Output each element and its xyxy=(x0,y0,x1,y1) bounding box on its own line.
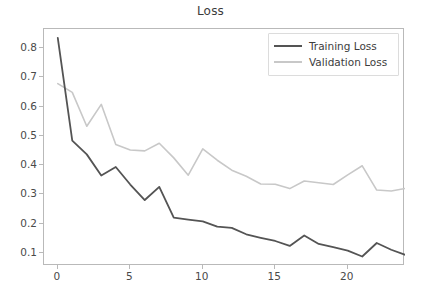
y-axis-tick-label: 0.7 xyxy=(7,70,37,82)
legend-swatch-validation-loss xyxy=(274,61,302,63)
chart-legend: Training Loss Validation Loss xyxy=(268,33,399,76)
legend-swatch-training-loss xyxy=(274,45,302,47)
y-axis-tick-label: 0.8 xyxy=(7,41,37,53)
x-axis-tick-label: 0 xyxy=(40,270,74,282)
y-axis-tick-label: 0.2 xyxy=(7,217,37,229)
figure-canvas: Loss 0.10.20.30.40.50.60.70.8 05101520 T… xyxy=(0,0,421,303)
x-axis-tick-label: 10 xyxy=(185,270,219,282)
legend-label-validation-loss: Validation Loss xyxy=(309,56,387,68)
y-axis-tick-label: 0.6 xyxy=(7,100,37,112)
legend-label-training-loss: Training Loss xyxy=(309,40,377,52)
y-axis-tick-label: 0.3 xyxy=(7,187,37,199)
chart-title: Loss xyxy=(0,4,421,18)
y-axis-tick-labels: 0.10.20.30.40.50.60.70.8 xyxy=(3,0,37,303)
legend-item-training-loss: Training Loss xyxy=(274,38,393,54)
y-axis-tick-label: 0.5 xyxy=(7,129,37,141)
y-axis-tick-label: 0.4 xyxy=(7,158,37,170)
x-axis-tick-label: 20 xyxy=(330,270,364,282)
series-line-validation-loss xyxy=(58,79,405,191)
x-axis-tick-label: 5 xyxy=(112,270,146,282)
legend-item-validation-loss: Validation Loss xyxy=(274,54,393,70)
y-axis-tick-label: 0.1 xyxy=(7,246,37,258)
x-axis-tick-label: 15 xyxy=(257,270,291,282)
